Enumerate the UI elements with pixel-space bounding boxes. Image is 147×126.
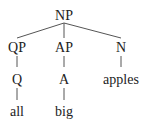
node-apples: apples [103, 72, 139, 87]
node-ap: AP [55, 40, 73, 55]
node-qp: QP [8, 40, 26, 55]
node-a: A [59, 72, 70, 87]
edge-np-qp [17, 23, 64, 38]
node-n: N [116, 40, 126, 55]
node-np: NP [55, 8, 73, 23]
syntax-tree: NP QP AP N Q A apples all big [0, 0, 147, 126]
node-big: big [55, 104, 73, 119]
node-q: Q [12, 72, 22, 87]
edge-np-n [64, 23, 121, 38]
node-all: all [10, 104, 24, 119]
